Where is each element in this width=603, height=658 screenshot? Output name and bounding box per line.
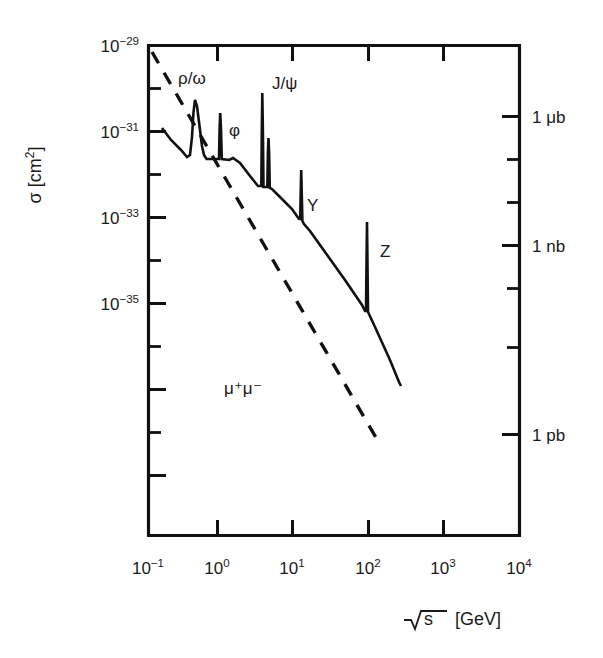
annotation-upsilon: Y xyxy=(307,196,318,215)
y-axis-left-ticks xyxy=(149,46,167,476)
figure-container: 10−1 100 101 102 103 104 10−29 xyxy=(0,0,603,658)
x-axis-title-group: s [GeV] xyxy=(404,609,501,629)
y-tick-label-picobarn: 1 pb xyxy=(532,426,565,445)
y-tick-label-1e-29: 10−29 xyxy=(101,35,139,56)
y-axis-right-tick-labels: 1 μb 1 nb 1 pb xyxy=(532,108,565,445)
annotation-rho-omega: ρ/ω xyxy=(178,69,206,88)
x-tick-label-1e4: 104 xyxy=(506,557,532,578)
annotation-z: Z xyxy=(380,242,390,261)
y-axis-right-ticks xyxy=(502,117,520,435)
x-tick-label-1e3: 103 xyxy=(430,557,455,578)
annotation-jpsi: J/ψ xyxy=(272,74,297,93)
y-tick-label-1e-31: 10−31 xyxy=(101,121,139,142)
resonance-annotations: ρ/ω φ J/ψ Y Z μ⁺μ⁻ xyxy=(178,69,390,398)
series-hadrons xyxy=(162,93,401,386)
y-tick-label-nanobarn: 1 nb xyxy=(532,237,565,256)
x-axis-top-ticks xyxy=(218,46,444,62)
x-tick-label-1e2: 102 xyxy=(355,557,380,578)
x-axis-tick-labels: 10−1 100 101 102 103 104 xyxy=(132,557,532,578)
y-axis-left-tick-labels: 10−29 10−31 10−33 10−35 xyxy=(101,35,139,314)
annotation-mumu: μ⁺μ⁻ xyxy=(224,379,262,398)
x-tick-label-1e1: 101 xyxy=(279,557,304,578)
y-axis-title: σ [cm2] xyxy=(23,147,45,204)
axes-rectangle xyxy=(149,46,520,536)
x-tick-label-1e0: 100 xyxy=(204,557,229,578)
y-tick-label-1e-35: 10−35 xyxy=(101,293,139,314)
annotation-phi: φ xyxy=(229,121,240,140)
x-axis-title-unit: [GeV] xyxy=(455,609,501,629)
x-tick-label-1e-1: 10−1 xyxy=(132,557,164,578)
hadron-cross-section-curve xyxy=(162,93,401,386)
y-axis-title-group: σ [cm2] xyxy=(23,147,45,204)
y-tick-label-microbarn: 1 μb xyxy=(532,108,565,127)
plot-frame xyxy=(149,46,520,536)
mumu-dashed-line xyxy=(152,52,378,441)
cross-section-plot: 10−1 100 101 102 103 104 10−29 xyxy=(0,0,603,658)
x-axis-bottom-ticks xyxy=(218,520,444,536)
y-tick-label-1e-33: 10−33 xyxy=(101,207,139,228)
x-axis-title-variable: s xyxy=(424,609,433,629)
series-mumu xyxy=(152,52,378,441)
